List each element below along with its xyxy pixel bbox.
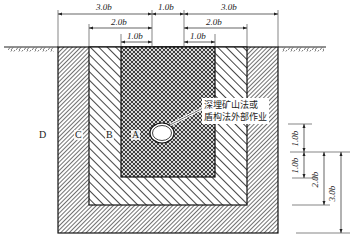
zone-label-a: A: [131, 130, 140, 140]
tunnel-circle-icon: [150, 123, 174, 143]
dim-label-right-2b: 2.0b: [206, 18, 222, 27]
zone-label-d: D: [38, 130, 47, 140]
zone-label-b: B: [105, 130, 114, 140]
work-zone-note: 深埋矿山法或 盾构法外部作业: [202, 98, 269, 124]
side-dim-label-lower-1b: 1.0b: [291, 158, 300, 174]
zone-label-c: C: [74, 130, 83, 140]
side-dimension-lines: [303, 124, 343, 233]
side-dim-label-3b: 3.0b: [328, 186, 337, 202]
note-line-1: 深埋矿山法或: [204, 99, 267, 111]
side-dim-label-2b: 2.0b: [311, 172, 320, 188]
note-line-2: 盾构法外部作业: [204, 111, 267, 123]
top-dimension-lines: [58, 13, 278, 44]
zone-a-region: [121, 47, 215, 177]
dim-label-right-1b: 1.0b: [190, 32, 206, 41]
dim-label-left-1b: 1.0b: [127, 32, 143, 41]
zoning-diagram: [0, 0, 355, 239]
dim-label-center-1b: 1.0b: [158, 3, 174, 12]
side-dim-label-upper-1b: 1.0b: [291, 131, 300, 147]
dim-label-right-3b: 3.0b: [221, 3, 237, 12]
dim-label-left-2b: 2.0b: [111, 18, 127, 27]
dim-label-left-3b: 3.0b: [96, 3, 112, 12]
